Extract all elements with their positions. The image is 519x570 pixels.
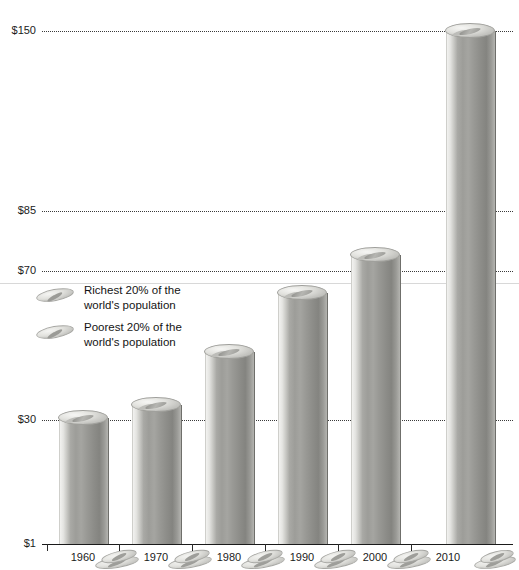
coin-slot-icon xyxy=(47,291,63,303)
y-axis-label-1: $1 xyxy=(0,538,36,549)
bar-body xyxy=(205,352,255,544)
y-axis-label-150: $150 xyxy=(0,25,36,36)
legend-label-poorest: Poorest 20% of the world's population xyxy=(84,320,182,350)
bar-cap-icon xyxy=(277,285,327,300)
x-axis-label-1970: 1970 xyxy=(126,551,186,563)
bar-richest-2010[interactable] xyxy=(446,31,494,544)
gridline-150 xyxy=(42,31,513,32)
gridline-85 xyxy=(42,211,513,212)
bar-richest-1970[interactable] xyxy=(132,405,180,544)
bar-cap-icon xyxy=(131,397,181,412)
x-axis-tick-1960 xyxy=(119,544,120,551)
bar-cap-icon xyxy=(58,410,108,425)
legend-item-richest[interactable]: Richest 20% of the world's population xyxy=(36,283,226,316)
coin-slot-icon xyxy=(364,250,387,260)
chart-container: $150 $85 $70 $30 $1 xyxy=(0,0,519,570)
legend-item-poorest[interactable]: Poorest 20% of the world's population xyxy=(36,320,226,353)
bar-richest-1990[interactable] xyxy=(278,293,326,544)
coin-icon xyxy=(35,323,75,341)
bar-poorest-2010[interactable] xyxy=(474,551,516,569)
x-axis-label-2000: 2000 xyxy=(345,551,405,563)
bar-cap-icon xyxy=(350,247,400,262)
y-axis-label-85: $85 xyxy=(0,205,36,216)
x-axis-tick-1990 xyxy=(338,544,339,551)
x-axis-label-1960: 1960 xyxy=(53,551,113,563)
x-axis-label-1980: 1980 xyxy=(199,551,259,563)
coin-slot-icon xyxy=(459,26,482,36)
coin-slot-icon xyxy=(72,413,95,423)
chart-legend: Richest 20% of the world's population Po… xyxy=(36,283,226,357)
bar-body xyxy=(351,255,401,544)
bar-cap-icon xyxy=(445,23,495,38)
gridline-70 xyxy=(42,271,513,272)
x-axis-label-2010: 2010 xyxy=(418,551,478,563)
coin-slot-icon xyxy=(145,400,168,410)
bar-body xyxy=(278,293,328,544)
coin-stack-icon xyxy=(36,324,74,339)
coin-icon xyxy=(35,286,75,304)
bar-richest-2000[interactable] xyxy=(351,255,399,544)
bar-richest-1980[interactable] xyxy=(205,352,253,544)
coin-stack-icon xyxy=(36,287,74,302)
y-axis-label-70: $70 xyxy=(0,265,36,276)
x-axis-tick-1970 xyxy=(192,544,193,551)
bar-richest-1960[interactable] xyxy=(59,418,107,544)
coin-slot-icon xyxy=(291,288,314,298)
x-axis-tick-2010 xyxy=(47,544,48,551)
x-axis-tick-1980 xyxy=(265,544,266,551)
bar-body xyxy=(446,31,496,544)
coin-slot-icon xyxy=(47,328,63,340)
bar-body xyxy=(132,405,182,544)
bar-body xyxy=(59,418,109,544)
x-axis-label-1990: 1990 xyxy=(272,551,332,563)
x-axis-baseline xyxy=(42,544,513,545)
legend-label-richest: Richest 20% of the world's population xyxy=(84,283,181,313)
y-axis-label-30: $30 xyxy=(0,414,36,425)
x-axis-tick-2000 xyxy=(411,544,412,551)
